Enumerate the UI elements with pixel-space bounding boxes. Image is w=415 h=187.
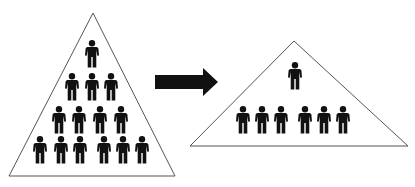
hierarchy-diagram <box>0 0 415 187</box>
diagram-canvas <box>0 0 415 187</box>
transform-arrow-icon <box>155 68 218 96</box>
pyramid-outline <box>190 41 408 146</box>
tall-hierarchy-pyramid <box>9 13 175 176</box>
flat-hierarchy-pyramid <box>190 41 408 146</box>
right-arrow-icon <box>155 68 218 96</box>
